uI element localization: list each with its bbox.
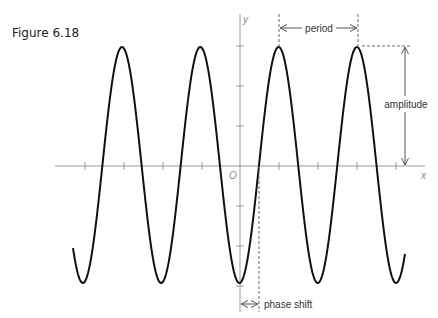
amplitude-label: amplitude: [384, 99, 428, 110]
period-label: period: [305, 23, 333, 34]
period-annotation: period: [279, 14, 358, 46]
y-axis-label: y: [242, 14, 249, 25]
sinusoid-diagram: x y O period amplitude phase sh: [0, 0, 438, 318]
x-axis-label: x: [420, 170, 427, 181]
amplitude-annotation: amplitude: [362, 46, 428, 165]
origin-label: O: [229, 170, 237, 181]
phase-shift-label: phase shift: [264, 299, 313, 310]
phase-shift-annotation: phase shift: [241, 166, 313, 312]
x-axis: x: [55, 162, 427, 181]
sine-curve: [73, 47, 405, 283]
